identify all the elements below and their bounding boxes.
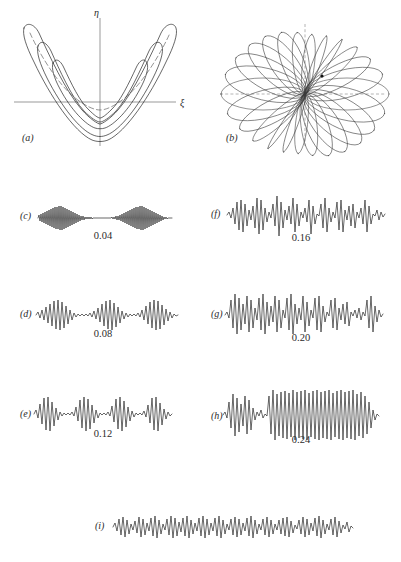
panel-e-waveform: (e) 0.12 [8, 390, 198, 448]
panel-a-xi-label: ξ [180, 97, 185, 109]
panel-c-waveform: (c) 0.04 [8, 196, 198, 250]
panel-a-eta-label: η [94, 7, 99, 18]
panel-h-value: 0.24 [205, 434, 397, 445]
panel-f-trace [227, 196, 385, 236]
figure-panel-grid: η ξ (a) [0, 0, 401, 562]
panel-label-a: (a) [22, 132, 34, 143]
panel-f-waveform: (f) 0.16 [205, 186, 397, 252]
panel-label-b: (b) [226, 132, 238, 143]
panel-g-trace [225, 294, 383, 334]
panel-a-phase-portrait: η ξ (a) [8, 6, 193, 156]
panel-e-value: 0.12 [8, 428, 198, 439]
panel-e-trace [34, 397, 172, 431]
panel-a-plot: η ξ [8, 6, 193, 156]
panel-c-value: 0.04 [8, 230, 198, 241]
panel-i-plot [85, 506, 375, 546]
panel-d-trace [36, 300, 178, 330]
panel-c-trace [38, 206, 172, 230]
panel-b-rosette-orbit: (b) [210, 6, 395, 156]
panel-f-value: 0.16 [205, 232, 397, 243]
panel-b-marker-dot [320, 74, 323, 77]
panel-g-value: 0.20 [205, 332, 397, 343]
panel-h-waveform: (h) 0.24 [205, 382, 397, 454]
panel-i-waveform: (i) [85, 506, 375, 552]
panel-d-value: 0.08 [8, 328, 198, 339]
panel-h-trace [223, 390, 379, 440]
panel-i-trace [113, 516, 353, 538]
panel-d-waveform: (d) 0.08 [8, 292, 198, 348]
panel-g-waveform: (g) 0.20 [205, 284, 397, 352]
